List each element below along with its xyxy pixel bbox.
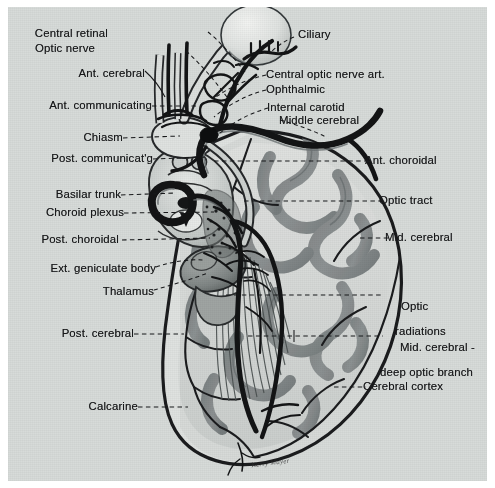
label-basilar-trunk: Basilar trunk (56, 188, 121, 200)
label-ant-choroidal: Ant. choroidal (365, 154, 437, 166)
label-ophthalmic: Ophthalmic (266, 83, 325, 95)
label-ciliary: Ciliary (298, 28, 331, 40)
label-optic-nerve: Optic nerve (35, 42, 95, 54)
anatomical-figure: Central retinal Optic nerve Ant. cerebra… (0, 0, 495, 488)
label-chiasm: Chiasm (83, 131, 123, 143)
label-calcarine: Calcarine (89, 400, 138, 412)
label-post-choroidal: Post. choroidal (41, 233, 119, 245)
figure-plate: Central retinal Optic nerve Ant. cerebra… (8, 7, 487, 481)
label-ext-geniculate-body: Ext. geniculate body (50, 262, 156, 274)
label-central-retinal: Central retinal (35, 27, 108, 39)
label-ant-communicating: Ant. communicating (49, 99, 152, 111)
label-middle-cerebral: Middle cerebral (279, 114, 359, 126)
label-ant-cerebral: Ant. cerebral (78, 67, 145, 79)
label-cerebral-cortex: Cerebral cortex (363, 380, 443, 392)
label-optic-tract: Optic tract (379, 194, 433, 206)
label-choroid-plexus: Choroid plexus (46, 206, 124, 218)
label-central-optic-nerve-art: Central optic nerve art. (266, 68, 385, 80)
label-thalamus: Thalamus (103, 285, 154, 297)
label-mid-cerebral: Mid. cerebral (385, 231, 453, 243)
label-internal-carotid: Internal carotid (267, 101, 345, 113)
label-post-cerebral: Post. cerebral (62, 327, 134, 339)
label-post-communicating: Post. communicat'g (51, 152, 153, 164)
